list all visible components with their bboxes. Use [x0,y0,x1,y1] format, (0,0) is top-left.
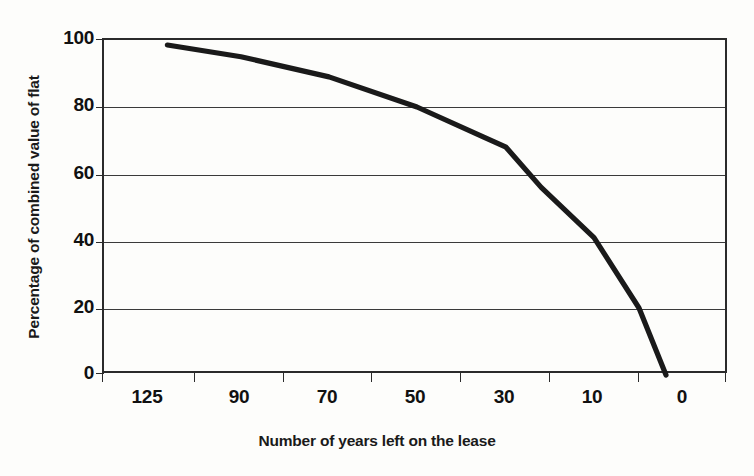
x-axis-tick-labels: 125 90 70 50 30 10 0 [0,386,754,416]
y-tick-label-40: 40 [48,229,94,251]
y-tick-label-80: 80 [48,94,94,116]
line-chart: Percentage of combined value of flat 100… [0,0,754,476]
y-tick-label-100: 100 [48,27,94,49]
x-tick-label-10: 10 [557,386,627,408]
x-tick-label-50: 50 [380,386,450,408]
x-tick-label-90: 90 [204,386,274,408]
y-tick-label-20: 20 [48,296,94,318]
x-axis-tick-marks [102,373,727,385]
y-tick-label-0: 0 [48,362,94,384]
x-tick-mark-3 [371,373,372,382]
x-tick-mark-0 [102,373,103,382]
x-tick-label-0: 0 [647,386,717,408]
y-tick-mark-80 [96,107,104,108]
x-tick-label-30: 30 [469,386,539,408]
x-tick-label-70: 70 [292,386,362,408]
x-tick-mark-2 [283,373,284,382]
y-tick-mark-20 [96,309,104,310]
x-tick-mark-1 [194,373,195,382]
x-tick-label-125: 125 [112,386,182,408]
y-axis-title: Percentage of combined value of flat [25,27,43,387]
x-tick-mark-5 [549,373,550,382]
y-tick-label-60: 60 [48,162,94,184]
data-series-line [104,40,729,375]
y-tick-mark-100 [96,39,104,40]
plot-area [102,38,727,373]
x-axis-title: Number of years left on the lease [0,432,754,450]
y-tick-mark-60 [96,175,104,176]
x-tick-mark-4 [460,373,461,382]
x-tick-mark-6 [638,373,639,382]
x-tick-mark-7 [725,373,726,382]
y-tick-mark-40 [96,242,104,243]
